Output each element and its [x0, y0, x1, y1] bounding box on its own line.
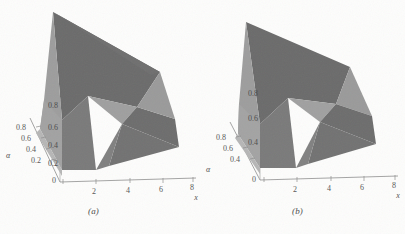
panel-caption-b: (b)	[196, 206, 399, 216]
x-axis-b: 2 4 6 8 x	[264, 175, 400, 200]
z-tick-label: 0.4	[248, 138, 258, 147]
y-tick-label: 0	[252, 175, 256, 184]
y-tick-label: 0	[52, 176, 56, 185]
x-tick-label: 4	[327, 184, 331, 193]
surface-facets-b	[235, 22, 376, 174]
y-tick-label: 0.8	[16, 123, 26, 132]
z-ticks-b: 0.8 0.6 0.4	[248, 89, 258, 147]
surface-plot-a: 0.8 0.6 0.4 0.2 0.8 0.6 0.4 0.2 0 α	[0, 0, 203, 210]
y-axis-title: α	[206, 165, 211, 174]
y-tick-label: 0.6	[223, 144, 233, 153]
plot-panel-a: 0.8 0.6 0.4 0.2 0.8 0.6 0.4 0.2 0 α	[0, 0, 203, 234]
z-tick-label: 0.6	[48, 123, 58, 132]
z-tick-label: 0.8	[48, 101, 58, 110]
x-axis-title: x	[193, 193, 198, 202]
x-tick-label: 8	[190, 183, 194, 192]
x-tick-label: 6	[360, 183, 364, 192]
y-tick-label: 0.2	[31, 156, 41, 165]
surface-plot-b: 0.8 0.6 0.4 0.8 0.6 0.4 0 α 2	[202, 0, 405, 210]
y-axis-title: α	[6, 151, 11, 160]
y-tick-label: 0.4	[26, 145, 36, 154]
x-tick-label: 2	[92, 187, 96, 196]
z-tick-label: 0.8	[248, 89, 258, 98]
x-tick-label: 2	[293, 185, 297, 194]
figure-root: 0.8 0.6 0.4 0.2 0.8 0.6 0.4 0.2 0 α	[0, 0, 405, 234]
z-tick-label: 0.2	[48, 159, 58, 168]
y-tick-label: 0.8	[216, 133, 226, 142]
x-axis-a: 2 4 6 8 x	[63, 177, 198, 202]
y-tick-label: 0.6	[21, 134, 31, 143]
surface-facets-a	[36, 12, 179, 176]
panel-caption-a: (a)	[0, 206, 195, 216]
x-tick-label: 4	[126, 186, 130, 195]
plot-panel-b: 0.8 0.6 0.4 0.8 0.6 0.4 0 α 2	[202, 0, 405, 234]
x-tick-label: 8	[392, 181, 396, 190]
y-tick-label: 0.4	[230, 155, 240, 164]
x-axis-title: x	[395, 191, 400, 200]
z-tick-label: 0.6	[248, 114, 258, 123]
x-tick-label: 6	[159, 185, 163, 194]
